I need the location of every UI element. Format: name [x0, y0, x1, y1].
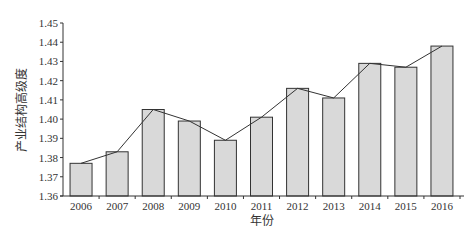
bar-2015 — [395, 67, 417, 196]
bar-2007 — [106, 152, 128, 196]
x-tick-label: 2013 — [323, 200, 346, 212]
x-tick-label: 2008 — [142, 200, 165, 212]
bar-2009 — [178, 121, 200, 196]
x-tick-label: 2015 — [395, 200, 418, 212]
bar-2014 — [359, 63, 381, 196]
x-tick-label: 2010 — [214, 200, 237, 212]
y-tick-label: 1.45 — [39, 17, 59, 29]
y-tick-label: 1.38 — [39, 152, 59, 164]
bar-2016 — [431, 46, 453, 196]
x-tick-label: 2006 — [70, 200, 93, 212]
y-tick-label: 1.42 — [39, 75, 58, 87]
x-tick-label: 2007 — [106, 200, 129, 212]
x-tick-label: 2016 — [431, 200, 454, 212]
bar-2008 — [142, 110, 164, 197]
x-tick-label: 2009 — [178, 200, 201, 212]
y-tick-label: 1.41 — [39, 94, 58, 106]
x-tick-label: 2014 — [359, 200, 382, 212]
y-tick-label: 1.37 — [39, 171, 59, 183]
y-tick-label: 1.40 — [39, 113, 59, 125]
x-tick-label: 2012 — [287, 200, 309, 212]
x-tick-label: 2011 — [251, 200, 273, 212]
bar-2013 — [323, 98, 345, 196]
bar-line-chart: 2006200720082009201020112012201320142015… — [0, 0, 476, 239]
bar-2012 — [287, 88, 309, 196]
bar-2006 — [70, 163, 92, 196]
bars-group — [70, 46, 453, 196]
bar-2011 — [251, 117, 273, 196]
y-tick-label: 1.39 — [39, 132, 59, 144]
y-tick-label: 1.43 — [39, 55, 59, 67]
bar-2010 — [214, 140, 236, 196]
y-tick-label: 1.36 — [39, 190, 59, 202]
y-axis-title: 产业结构高级度 — [14, 68, 29, 152]
x-axis-title: 年份 — [250, 214, 274, 228]
y-tick-label: 1.44 — [39, 36, 59, 48]
